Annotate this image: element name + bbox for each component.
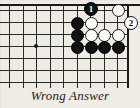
grid-line-horizontal [0, 70, 129, 71]
grid-line-vertical [50, 4, 51, 88]
grid-line-vertical [9, 4, 10, 88]
black-stone-r2c6 [71, 17, 84, 30]
star-point [34, 44, 38, 48]
grid-line-horizontal [0, 58, 129, 59]
black-stone-r4c7 [85, 41, 98, 54]
grid-line-vertical [23, 4, 24, 88]
black-stone-r3c6 [71, 29, 84, 42]
white-stone-r3c9 [112, 29, 125, 42]
move-2-white: 2 [124, 16, 138, 30]
white-stone-r1c9 [112, 4, 125, 17]
white-stone-r3c7 [85, 29, 98, 42]
grid-line-horizontal [0, 22, 129, 23]
figure-caption: Wrong Answer [0, 88, 140, 104]
move-1-black: 1 [84, 2, 98, 16]
grid-line-vertical [63, 4, 64, 88]
black-stone-r4c8 [98, 41, 111, 54]
white-stone-r2c7 [85, 17, 98, 30]
go-problem-figure: 12 Wrong Answer [0, 0, 140, 108]
black-stone-r4c9 [112, 41, 125, 54]
black-stone-r4c6 [71, 41, 84, 54]
white-stone-r3c8 [98, 29, 111, 42]
go-board[interactable]: 12 [0, 0, 140, 88]
grid-line-horizontal [0, 82, 129, 83]
grid-line-horizontal [0, 10, 129, 11]
